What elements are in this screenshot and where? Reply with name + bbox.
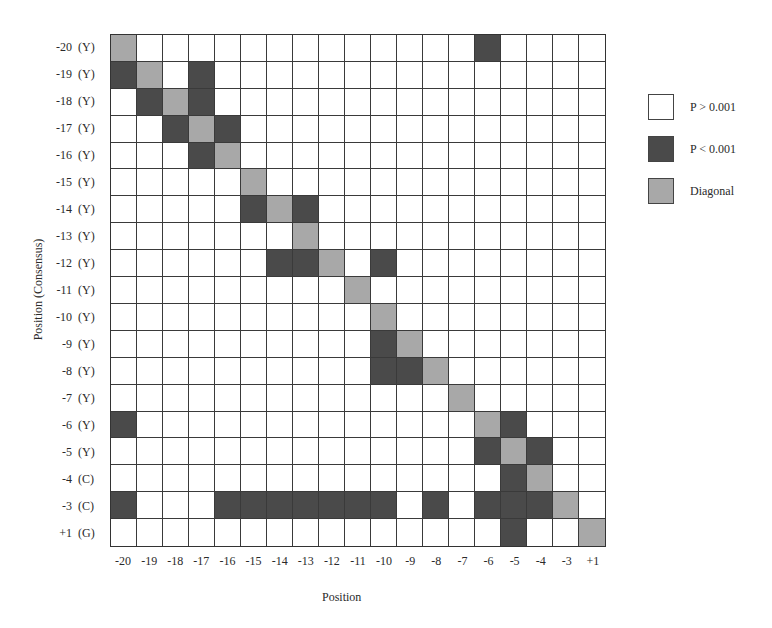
y-tick-label: -18(Y) [0,88,106,115]
legend: P > 0.001 P < 0.001 Diagonal [648,86,736,212]
x-tick-label: -18 [162,554,188,572]
y-tick-residue: (Y) [78,337,100,352]
heatmap-cell [267,331,293,358]
heatmap-cell [319,62,345,89]
heatmap-cell [397,304,423,331]
heatmap-cell [449,385,475,412]
heatmap-cell [397,169,423,196]
y-tick-label: -12(Y) [0,250,106,277]
heatmap-cell [397,250,423,277]
heatmap-cell [475,277,501,304]
heatmap-cell [449,492,475,519]
y-tick-label: -11(Y) [0,277,106,304]
y-tick-residue: (Y) [78,391,100,406]
heatmap-cell [345,465,371,492]
heatmap-cell [137,358,163,385]
heatmap-cell [371,89,397,116]
x-tick-label: -19 [136,554,162,572]
heatmap-cell [215,62,241,89]
heatmap-cell [553,35,579,62]
heatmap-cell [267,492,293,519]
heatmap-cell [527,143,553,170]
heatmap-cell [267,196,293,223]
y-tick-residue: (Y) [78,310,100,325]
heatmap-cell [527,277,553,304]
heatmap-cell [345,519,371,546]
heatmap-cell [501,331,527,358]
heatmap-cell [267,250,293,277]
heatmap-cell [397,89,423,116]
y-tick-label: -19(Y) [0,61,106,88]
heatmap-cell [553,492,579,519]
legend-label: P > 0.001 [690,100,736,115]
heatmap-cell [579,35,605,62]
heatmap-cell [579,89,605,116]
heatmap-cell [293,143,319,170]
heatmap-cell [189,385,215,412]
heatmap-cell [189,89,215,116]
heatmap-cell [267,385,293,412]
heatmap-cell [423,492,449,519]
heatmap-cell [111,412,137,439]
heatmap-cell [319,304,345,331]
heatmap-cell [215,385,241,412]
legend-swatch-gray [648,178,674,204]
heatmap-cell [345,116,371,143]
x-tick-label: -15 [241,554,267,572]
heatmap-cell [241,304,267,331]
heatmap-cell [475,62,501,89]
heatmap-cell [449,438,475,465]
heatmap-cell [215,358,241,385]
y-tick-residue: (Y) [78,229,100,244]
heatmap-cell [527,358,553,385]
x-tick-label: -4 [528,554,554,572]
heatmap-cell [371,169,397,196]
heatmap-cell [293,331,319,358]
heatmap-cell [293,223,319,250]
heatmap-cell [111,277,137,304]
y-tick-residue: (C) [78,472,100,487]
y-tick-label: -15(Y) [0,169,106,196]
heatmap-cell [371,304,397,331]
legend-label: Diagonal [690,184,734,199]
heatmap-cell [319,519,345,546]
heatmap-cell [319,438,345,465]
heatmap-cell [553,358,579,385]
y-tick-position: -5 [42,445,72,460]
heatmap-cell [475,412,501,439]
heatmap-cell [397,35,423,62]
heatmap-cell [319,358,345,385]
heatmap-cell [449,331,475,358]
x-tick-label: -11 [345,554,371,572]
heatmap-cell [189,519,215,546]
x-tick-label: -9 [397,554,423,572]
heatmap-cell [345,35,371,62]
heatmap-cell [137,519,163,546]
heatmap-cell [397,196,423,223]
y-tick-position: -12 [42,256,72,271]
heatmap-cell [371,519,397,546]
x-tick-label: -16 [214,554,240,572]
heatmap-cell [371,331,397,358]
heatmap-cell [371,465,397,492]
y-tick-label: -9(Y) [0,331,106,358]
heatmap-cell [293,519,319,546]
heatmap-cell [553,89,579,116]
heatmap-cell [501,277,527,304]
heatmap-cell [163,304,189,331]
heatmap-cell [215,143,241,170]
heatmap-cell [579,62,605,89]
heatmap-cell [293,62,319,89]
heatmap-cell [553,223,579,250]
heatmap-cell [137,89,163,116]
y-tick-position: -6 [42,418,72,433]
y-tick-position: -4 [42,472,72,487]
heatmap-cell [449,412,475,439]
x-tick-label: -8 [423,554,449,572]
x-axis-title: Position [322,590,361,605]
heatmap-cell [189,35,215,62]
heatmap-cell [527,519,553,546]
y-tick-position: -8 [42,364,72,379]
heatmap-cell [189,358,215,385]
heatmap-cell [397,62,423,89]
